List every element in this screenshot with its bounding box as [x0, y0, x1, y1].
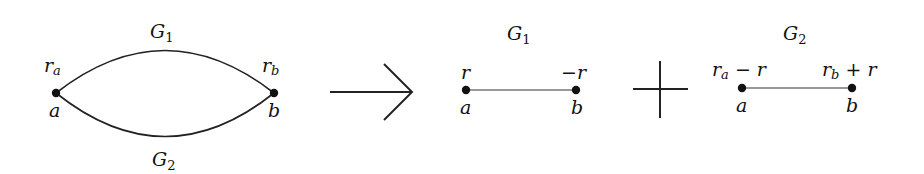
plus-icon — [633, 61, 688, 118]
node-a — [52, 89, 60, 97]
node-a-value: ra — [44, 54, 61, 78]
node-a-value: ra − r — [712, 58, 768, 82]
node-b-label: b — [268, 99, 280, 121]
edge-label-g2: G2 — [152, 148, 175, 173]
node-a-label: a — [460, 96, 471, 118]
node-b-label: b — [571, 96, 583, 118]
node-b-value: rb + r — [822, 58, 878, 82]
node-b-value: rb — [262, 54, 279, 78]
edge-g1-upper — [56, 51, 274, 94]
left-graph: G1 G2 ra rb a b — [44, 20, 280, 173]
node-a-label: a — [736, 94, 747, 116]
node-b-label: b — [846, 94, 858, 116]
node-b-value: −r — [561, 61, 588, 83]
node-a — [462, 86, 470, 94]
node-a-value: r — [461, 61, 472, 83]
node-a-label: a — [49, 99, 60, 121]
middle-graph: G1 r −r a b — [460, 22, 588, 118]
graph-decomposition-diagram: G1 G2 ra rb a b G1 r −r a b — [0, 0, 924, 174]
edge-label-g1: G1 — [507, 22, 530, 47]
decomposition-arrow-icon — [330, 64, 412, 120]
node-a — [738, 84, 746, 92]
edge-label-g1: G1 — [150, 20, 173, 45]
edge-label-g2: G2 — [783, 22, 806, 47]
right-graph: G2 ra − r rb + r a b — [712, 22, 878, 116]
node-b — [848, 84, 856, 92]
node-b — [270, 89, 278, 97]
edge-g2-lower — [56, 93, 274, 137]
node-b — [572, 86, 580, 94]
